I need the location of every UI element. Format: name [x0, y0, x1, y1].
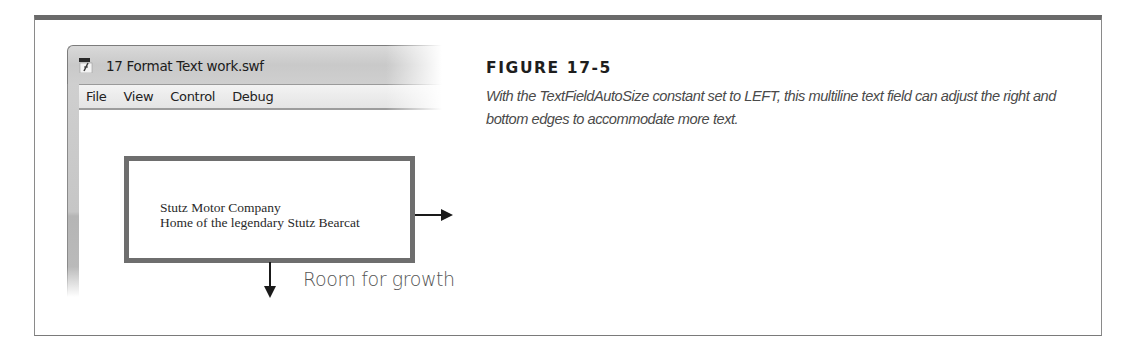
menu-control[interactable]: Control — [170, 89, 215, 104]
arrow-right-icon — [415, 206, 455, 224]
text-field-line-1: Stutz Motor Company — [160, 200, 281, 216]
menu-file[interactable]: File — [86, 89, 107, 104]
window-titlebar[interactable]: 17 Format Text work.swf — [67, 45, 442, 84]
room-for-growth-label: Room for growth — [303, 268, 455, 290]
menu-view[interactable]: View — [124, 89, 154, 104]
flash-player-icon — [79, 58, 93, 73]
menu-bar: File View Control Debug — [79, 84, 442, 110]
menu-debug[interactable]: Debug — [232, 89, 273, 104]
figure-caption: With the TextFieldAutoSize constant set … — [486, 85, 1086, 131]
figure-number: FIGURE 17-5 — [486, 59, 612, 77]
window-left-border — [67, 84, 79, 297]
multiline-text-field[interactable]: Stutz Motor Company Home of the legendar… — [124, 156, 415, 263]
arrow-down-icon — [261, 262, 279, 300]
text-field-line-2: Home of the legendary Stutz Bearcat — [160, 215, 360, 231]
window-title: 17 Format Text work.swf — [106, 58, 264, 74]
